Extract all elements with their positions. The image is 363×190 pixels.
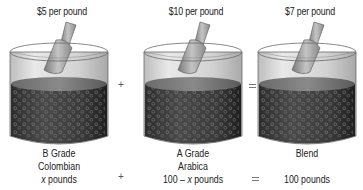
plus-operator-bottom: + xyxy=(118,171,124,182)
label-blend: Blend 100 pounds xyxy=(259,147,356,186)
jar-a-grade-arabica xyxy=(138,18,248,150)
quantity-unit: pounds xyxy=(192,174,223,185)
quantity-prefix: 100 – xyxy=(163,174,187,185)
blend-name: Blend xyxy=(259,147,356,160)
quantity-unit: pounds xyxy=(46,174,77,185)
quantity: 100 pounds xyxy=(259,173,356,186)
price-label-a-grade: $10 per pound xyxy=(156,6,235,17)
label-b-grade: B Grade Colombian x pounds xyxy=(11,147,108,186)
plus-operator-top: + xyxy=(118,79,124,90)
price-label-blend: $7 per pound xyxy=(270,6,349,17)
label-a-grade: A Grade Arabica 100 – x pounds xyxy=(145,147,242,186)
equals-operator-bottom xyxy=(252,177,259,181)
bean-type: Colombian xyxy=(11,160,108,173)
bean-type: Arabica xyxy=(145,160,242,173)
jar-blend xyxy=(252,18,362,150)
coffee-jar-icon xyxy=(138,18,248,150)
quantity: x pounds xyxy=(11,173,108,186)
jar-b-grade-colombian xyxy=(4,18,114,150)
grade-name: A Grade xyxy=(145,147,242,160)
spacer xyxy=(259,160,356,173)
price-label-b-grade: $5 per pound xyxy=(22,6,101,17)
coffee-jar-icon xyxy=(252,18,362,150)
grade-name: B Grade xyxy=(11,147,108,160)
coffee-jar-icon xyxy=(4,18,114,150)
quantity: 100 – x pounds xyxy=(145,173,242,186)
